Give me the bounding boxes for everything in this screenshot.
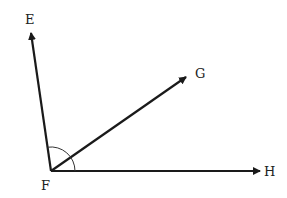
ray-fe <box>31 33 51 171</box>
label-f: F <box>41 178 50 193</box>
angle-diagram: E G H F <box>0 0 287 198</box>
label-h: H <box>264 164 275 179</box>
label-e: E <box>25 12 35 27</box>
ray-fg <box>51 77 186 171</box>
angle-arc-efh <box>48 147 75 171</box>
label-g: G <box>195 66 205 81</box>
